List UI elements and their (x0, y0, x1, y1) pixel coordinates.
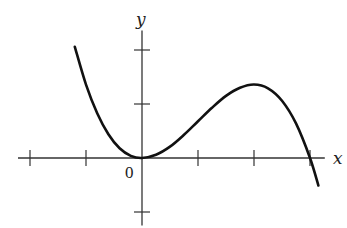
axes (18, 30, 325, 225)
y-axis-label: y (135, 9, 146, 29)
origin-label: 0 (125, 163, 134, 182)
x-axis-label: x (333, 148, 343, 168)
axis-ticks (30, 50, 310, 212)
function-graph: x y 0 (0, 0, 347, 228)
function-curve (75, 47, 319, 186)
